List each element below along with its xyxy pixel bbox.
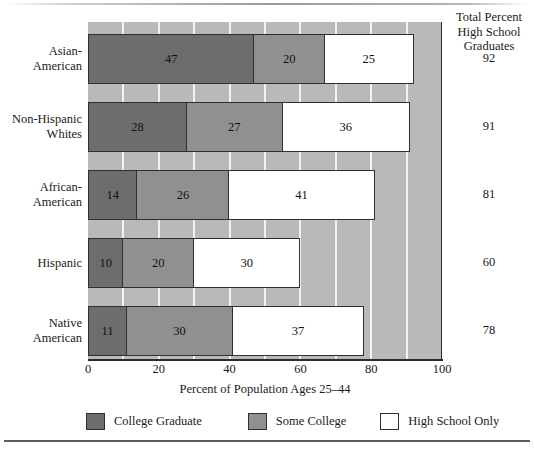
category-label-line: Hispanic	[0, 256, 82, 271]
category-label-line: Native	[0, 316, 82, 331]
legend-item-some-college[interactable]: Some College	[248, 413, 346, 430]
bar-segment-value: 27	[228, 120, 241, 135]
bar-segment[interactable]: 47	[88, 34, 254, 84]
bar-segment[interactable]: 41	[228, 170, 374, 220]
x-axis-title: Percent of Population Ages 25–44	[88, 382, 442, 397]
category-label-line: Whites	[0, 127, 82, 142]
bar-row: 113037	[88, 306, 364, 356]
legend-swatch-high-school-only	[380, 413, 399, 430]
bar-row: 472025	[88, 34, 414, 84]
bar-segment[interactable]: 10	[88, 238, 123, 288]
bar-segment[interactable]: 36	[282, 102, 411, 152]
legend-swatch-some-college	[248, 413, 267, 430]
category-label: Non-HispanicWhites	[0, 112, 82, 141]
bar-segment-value: 20	[152, 256, 165, 271]
bar-segment-value: 26	[177, 188, 190, 203]
category-label-line: American	[0, 195, 82, 210]
category-label-line: Asian-	[0, 44, 82, 59]
bar-row: 142641	[88, 170, 375, 220]
category-label-line: African-	[0, 180, 82, 195]
total-percent-column-header: Total Percent High School Graduates	[446, 10, 532, 54]
chart-legend: College Graduate Some College High Schoo…	[86, 413, 499, 430]
x-tick-label: 20	[139, 362, 179, 377]
bar-segment[interactable]: 37	[232, 306, 364, 356]
category-label-line: American	[0, 331, 82, 346]
bar-segment-value: 36	[340, 120, 353, 135]
legend-item-college-graduate[interactable]: College Graduate	[86, 413, 202, 430]
legend-label-high-school-only: High School Only	[408, 414, 499, 429]
bar-segment[interactable]: 20	[122, 238, 194, 288]
bar-segment[interactable]: 14	[88, 170, 138, 220]
bar-segment[interactable]: 28	[88, 102, 187, 152]
bar-segment[interactable]: 30	[193, 238, 300, 288]
category-label: Hispanic	[0, 256, 82, 271]
total-header-line-1: Total Percent	[446, 10, 532, 25]
bar-segment[interactable]: 20	[253, 34, 325, 84]
bar-segment[interactable]: 30	[126, 306, 233, 356]
x-tick-label: 60	[280, 362, 320, 377]
bar-segment[interactable]: 26	[136, 170, 229, 220]
legend-item-high-school-only[interactable]: High School Only	[380, 413, 499, 430]
x-axis-line	[88, 359, 443, 361]
x-tick-label: 100	[422, 362, 462, 377]
bar-segment-value: 20	[283, 52, 296, 67]
legend-label-college-graduate: College Graduate	[114, 414, 202, 429]
bar-row: 282736	[88, 102, 410, 152]
bar-segment-value: 47	[165, 52, 178, 67]
chart-plot-area: 472025282736142641102030113037	[88, 22, 442, 360]
total-percent-value: 60	[446, 255, 532, 270]
x-tick-label: 80	[351, 362, 391, 377]
bar-segment[interactable]: 25	[324, 34, 414, 84]
category-label-line: American	[0, 59, 82, 74]
top-divider-rule	[6, 3, 528, 5]
total-percent-value: 92	[446, 51, 532, 66]
bar-segment-value: 41	[295, 188, 308, 203]
total-header-line-2: High School	[446, 25, 532, 40]
bar-segment-value: 11	[101, 324, 113, 339]
bottom-divider-rule	[4, 440, 530, 442]
category-label: NativeAmerican	[0, 316, 82, 345]
bar-segment-value: 25	[363, 52, 376, 67]
bar-segment[interactable]: 27	[186, 102, 283, 152]
bar-segment-value: 37	[292, 324, 305, 339]
category-label: Asian-American	[0, 44, 82, 73]
bar-segment[interactable]: 11	[88, 306, 127, 356]
bar-segment-value: 30	[173, 324, 186, 339]
x-tick-label: 40	[210, 362, 250, 377]
bar-segment-value: 14	[107, 188, 120, 203]
bar-segment-value: 28	[131, 120, 144, 135]
category-label-line: Non-Hispanic	[0, 112, 82, 127]
legend-label-some-college: Some College	[276, 414, 346, 429]
total-percent-value: 78	[446, 323, 532, 338]
bar-segment-value: 30	[240, 256, 253, 271]
x-tick-label: 0	[68, 362, 108, 377]
bar-segment-value: 10	[99, 256, 112, 271]
total-percent-value: 81	[446, 187, 532, 202]
bar-row: 102030	[88, 238, 300, 288]
legend-swatch-college-graduate	[86, 413, 105, 430]
category-label: African-American	[0, 180, 82, 209]
total-percent-value: 91	[446, 119, 532, 134]
